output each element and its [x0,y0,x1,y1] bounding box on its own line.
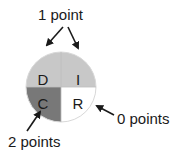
arrow-to-i-icon [68,27,78,48]
quadrant-label-d: D [35,72,51,87]
quadrant-label-c: C [35,96,51,111]
quadrant-label-i: I [70,72,86,87]
quadrant-label-r: R [70,96,86,111]
arrow-to-c-icon [27,112,40,131]
label-two-points: 2 points [8,134,61,149]
arrow-to-r-icon [97,106,114,115]
arrow-to-d-icon [47,27,63,45]
label-one-point: 1 point [38,7,83,22]
label-zero-points: 0 points [117,111,170,126]
